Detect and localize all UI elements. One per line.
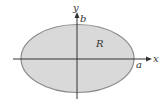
y-axis-label: y (72, 2, 79, 13)
b-label: b (80, 13, 86, 24)
x-axis-label: x (153, 53, 159, 64)
x-axis-arrow-icon (146, 57, 152, 62)
region-label: R (95, 38, 104, 49)
ellipse-diagram: y b x a R (0, 0, 166, 100)
a-label: a (136, 59, 142, 70)
